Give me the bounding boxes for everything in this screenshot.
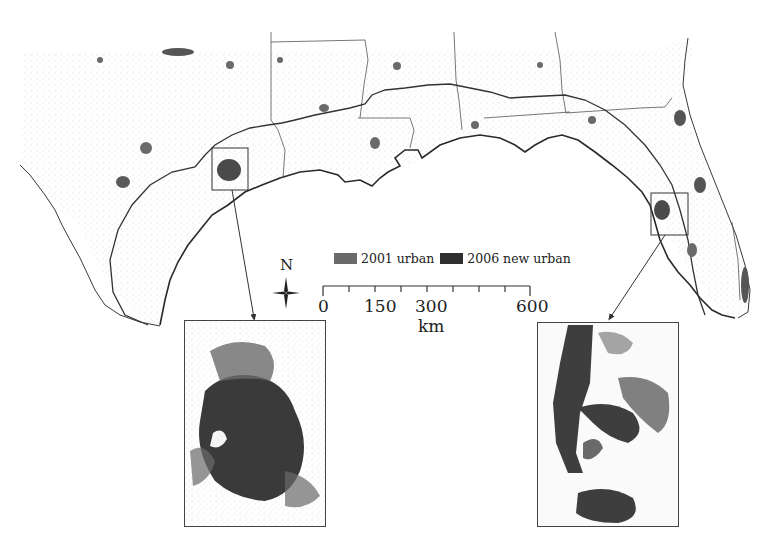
scale-tick-600: 600: [516, 296, 548, 316]
legend-label-2001-urban: 2001 urban: [361, 251, 434, 266]
houston-leader-arrow: [232, 190, 254, 318]
north-label: N: [280, 256, 293, 274]
tampa-inset-map: [538, 323, 678, 526]
houston-inset-map: [185, 321, 325, 526]
scale-tick-150: 150: [364, 296, 396, 316]
scale-bar: [323, 286, 530, 296]
legend-swatch-2001-urban: [334, 253, 357, 264]
gulf-coast-urban-map: 2001 urban 2006 new urban N 0 150 300 60…: [0, 0, 771, 546]
houston-inset: [184, 320, 326, 527]
tampa-inset: [537, 322, 679, 527]
tampa-leader-arrow: [610, 235, 665, 318]
scale-tick-0: 0: [318, 296, 329, 316]
north-arrow-icon: [272, 277, 300, 309]
legend-label-2006-new-urban: 2006 new urban: [467, 251, 570, 266]
legend-swatch-2006-new-urban: [440, 253, 463, 264]
scale-tick-300: 300: [415, 296, 447, 316]
scale-unit-label: km: [418, 316, 444, 336]
legend: 2001 urban 2006 new urban: [334, 251, 571, 266]
